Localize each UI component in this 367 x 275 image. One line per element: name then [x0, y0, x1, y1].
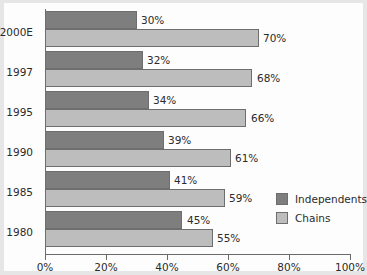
bar-label-independents-1997: 32% [147, 54, 170, 66]
x-tick-40 [167, 255, 168, 260]
x-axis-line [45, 254, 351, 255]
x-tick-label-20: 20% [94, 261, 117, 273]
x-tick-100 [350, 255, 351, 260]
bar-label-independents-1990: 39% [168, 134, 191, 146]
bar-chains-1990 [45, 149, 231, 167]
category-label-1990: 1990 [6, 146, 33, 158]
category-label-2000e: 2000E [0, 26, 33, 38]
bar-independents-1980 [45, 211, 182, 229]
x-tick-80 [289, 255, 290, 260]
chart-legend: Independents Chains [276, 189, 367, 227]
x-tick-label-40: 40% [155, 261, 178, 273]
bar-label-chains-1990: 61% [235, 152, 258, 164]
bar-label-chains-1997: 68% [257, 72, 280, 84]
bar-label-chains-2000e: 70% [263, 32, 286, 44]
chart-page: 0% 20% 40% 60% 80% 100% 2000E 1997 1995 … [0, 0, 367, 275]
bar-independents-1997 [45, 51, 143, 69]
category-label-1980: 1980 [6, 226, 33, 238]
x-tick-20 [106, 255, 107, 260]
bar-chains-2000e [45, 29, 259, 47]
legend-item-independents: Independents [276, 189, 367, 208]
x-tick-label-100: 100% [335, 261, 365, 273]
bar-label-independents-1995: 34% [153, 94, 176, 106]
x-tick-label-60: 60% [216, 261, 239, 273]
x-tick-0 [45, 255, 46, 260]
bar-label-independents-1980: 45% [187, 214, 210, 226]
bar-chains-1997 [45, 69, 252, 87]
bar-label-chains-1995: 66% [251, 112, 274, 124]
chart-canvas: 0% 20% 40% 60% 80% 100% 2000E 1997 1995 … [4, 3, 363, 271]
category-label-1997: 1997 [6, 66, 33, 78]
bar-independents-1995 [45, 91, 149, 109]
bar-label-independents-2000e: 30% [141, 14, 164, 26]
legend-label-chains: Chains [295, 212, 330, 224]
bar-independents-1985 [45, 171, 170, 189]
bar-chains-1985 [45, 189, 225, 207]
category-label-1995: 1995 [6, 106, 33, 118]
x-tick-label-0: 0% [37, 261, 54, 273]
x-tick-60 [228, 255, 229, 260]
legend-swatch-independents-icon [276, 193, 288, 205]
bar-label-chains-1980: 55% [217, 232, 240, 244]
legend-label-independents: Independents [295, 193, 367, 205]
legend-item-chains: Chains [276, 208, 367, 227]
category-label-1985: 1985 [6, 186, 33, 198]
x-tick-label-80: 80% [277, 261, 300, 273]
bar-chains-1995 [45, 109, 246, 127]
bar-independents-1990 [45, 131, 164, 149]
bar-label-independents-1985: 41% [174, 174, 197, 186]
bar-independents-2000e [45, 11, 137, 29]
legend-swatch-chains-icon [276, 212, 288, 224]
bar-label-chains-1985: 59% [229, 192, 252, 204]
bar-chains-1980 [45, 229, 213, 247]
